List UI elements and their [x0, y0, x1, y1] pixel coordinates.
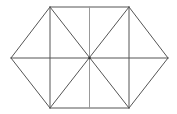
- hexagon-diagram: [0, 0, 177, 114]
- edge-top-right: [129, 7, 168, 58]
- center-point: [88, 57, 91, 60]
- edge-bottom-left: [11, 58, 50, 108]
- edge-top-left: [11, 7, 50, 58]
- edge-bottom-right: [129, 58, 168, 108]
